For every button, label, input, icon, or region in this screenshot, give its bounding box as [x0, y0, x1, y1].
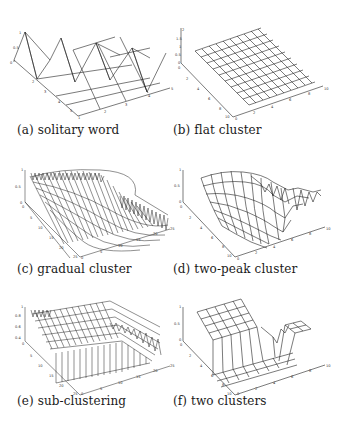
caption-c: (c) gradual cluster — [17, 262, 132, 276]
svg-text:10: 10 — [38, 364, 43, 368]
panel-d: 1 0.5 0 0 2 4 6 8 10 0 2 4 6 8 10 (d) tw… — [173, 140, 343, 280]
svg-text:4: 4 — [200, 226, 203, 230]
svg-text:1: 1 — [179, 305, 181, 309]
panel-c: 1 0.5 0 0 5 10 15 20 25 0 5 10 15 20 25 … — [0, 140, 170, 280]
svg-text:15: 15 — [136, 375, 141, 379]
svg-text:10: 10 — [118, 244, 123, 248]
surface-plot-d: 1 0.5 0 0 2 4 6 8 10 0 2 4 6 8 10 — [173, 140, 346, 260]
svg-text:6: 6 — [208, 97, 211, 101]
svg-text:0: 0 — [22, 205, 25, 209]
svg-text:10: 10 — [38, 226, 43, 230]
svg-text:1: 1 — [179, 45, 181, 49]
svg-text:4: 4 — [148, 94, 151, 98]
svg-text:0: 0 — [179, 200, 182, 204]
svg-text:15: 15 — [136, 238, 141, 242]
panel-e: 1 0.8 0.6 0.4 0 5 10 15 20 25 0 5 10 15 … — [0, 285, 170, 427]
svg-text:4: 4 — [273, 245, 276, 249]
panel-a: 1 0.5 0 2 3 4 5 1 2 3 4 5 (a) solitary w… — [0, 0, 170, 140]
svg-text:0.5: 0.5 — [174, 322, 180, 326]
svg-text:20: 20 — [153, 232, 158, 236]
svg-text:20: 20 — [59, 246, 64, 250]
svg-text:1: 1 — [78, 116, 80, 120]
caption-d: (d) two-peak cluster — [173, 262, 297, 276]
svg-text:20: 20 — [153, 369, 158, 373]
svg-text:2: 2 — [253, 111, 255, 115]
svg-text:10: 10 — [118, 381, 123, 385]
svg-text:5: 5 — [30, 216, 32, 220]
svg-text:1: 1 — [19, 31, 21, 35]
svg-text:10: 10 — [326, 227, 331, 231]
svg-text:10: 10 — [326, 364, 331, 368]
svg-text:10: 10 — [227, 254, 232, 258]
svg-text:0.5: 0.5 — [175, 53, 181, 57]
svg-text:5: 5 — [100, 250, 102, 254]
svg-text:6: 6 — [211, 236, 214, 240]
svg-text:4: 4 — [200, 364, 203, 368]
svg-text:0: 0 — [178, 61, 181, 65]
svg-text:2: 2 — [32, 80, 34, 84]
svg-text:2: 2 — [104, 110, 106, 114]
svg-text:0: 0 — [235, 117, 238, 121]
svg-text:10: 10 — [324, 87, 329, 91]
svg-text:2: 2 — [255, 251, 257, 255]
surface-plot-e: 1 0.8 0.6 0.4 0 5 10 15 20 25 0 5 10 15 … — [0, 285, 173, 395]
svg-text:20: 20 — [59, 384, 64, 388]
surface-plot-a: 1 0.5 0 2 3 4 5 1 2 3 4 5 — [0, 0, 173, 120]
caption-f: (f) two clusters — [173, 394, 267, 408]
svg-text:0: 0 — [180, 205, 183, 209]
svg-text:15: 15 — [49, 374, 54, 378]
svg-text:0: 0 — [81, 256, 84, 260]
svg-text:10: 10 — [225, 115, 230, 119]
svg-text:0: 0 — [10, 61, 13, 65]
svg-text:1: 1 — [21, 305, 23, 309]
svg-text:8: 8 — [308, 92, 311, 96]
svg-text:3: 3 — [125, 103, 127, 107]
surface-plot-b: 2 1.5 1 0.5 0 0 2 4 6 8 10 0 2 4 6 8 10 — [173, 0, 346, 120]
svg-text:2: 2 — [182, 28, 184, 32]
surface-plot-c: 1 0.5 0 0 5 10 15 20 25 0 5 10 15 20 25 — [0, 140, 173, 260]
svg-text:0: 0 — [22, 342, 25, 346]
svg-text:0.5: 0.5 — [13, 46, 19, 50]
svg-text:0.5: 0.5 — [174, 184, 180, 188]
svg-text:0: 0 — [237, 257, 240, 261]
svg-text:1: 1 — [21, 168, 23, 172]
svg-text:0.8: 0.8 — [15, 314, 21, 318]
caption-b: (b) flat cluster — [173, 123, 262, 137]
svg-text:6: 6 — [289, 98, 292, 102]
svg-text:0.5: 0.5 — [15, 185, 21, 189]
svg-text:6: 6 — [291, 238, 294, 242]
svg-text:1: 1 — [179, 168, 181, 172]
svg-text:0: 0 — [180, 343, 183, 347]
panel-f: 1 0.5 0 0 2 4 6 8 10 0 2 4 6 8 10 (f) tw… — [173, 285, 343, 427]
svg-text:2: 2 — [255, 387, 257, 391]
svg-text:5: 5 — [70, 109, 72, 113]
caption-a: (a) solitary word — [17, 123, 119, 137]
svg-text:0: 0 — [178, 66, 181, 70]
svg-text:2: 2 — [189, 354, 191, 358]
svg-text:0.4: 0.4 — [15, 336, 21, 340]
svg-text:0.6: 0.6 — [15, 325, 21, 329]
svg-text:5: 5 — [30, 354, 32, 358]
svg-text:15: 15 — [49, 236, 54, 240]
panel-b: 2 1.5 1 0.5 0 0 2 4 6 8 10 0 2 4 6 8 10 … — [173, 0, 343, 140]
svg-text:2: 2 — [189, 216, 191, 220]
svg-text:5: 5 — [100, 387, 102, 391]
svg-text:4: 4 — [271, 105, 274, 109]
caption-e: (e) sub-clustering — [17, 394, 126, 408]
svg-text:25: 25 — [73, 255, 78, 259]
svg-text:8: 8 — [219, 107, 222, 111]
svg-text:3: 3 — [44, 90, 46, 94]
svg-text:8: 8 — [222, 383, 225, 387]
svg-text:4: 4 — [197, 87, 200, 91]
svg-text:1.5: 1.5 — [176, 37, 182, 41]
svg-text:0: 0 — [179, 338, 182, 342]
surface-plot-f: 1 0.5 0 0 2 4 6 8 10 0 2 4 6 8 10 — [173, 285, 346, 395]
svg-text:8: 8 — [309, 232, 312, 236]
svg-text:2: 2 — [186, 77, 188, 81]
